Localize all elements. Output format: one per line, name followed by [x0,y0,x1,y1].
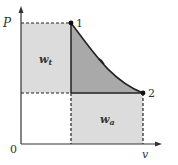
point-2-label: 2 [148,87,155,100]
pv-diagram: P v 0 1 2 wt wa [0,0,178,165]
point-2-marker [141,91,146,96]
point-1-marker [69,21,74,26]
x-axis-label: v [142,148,149,161]
y-axis-arrow-icon [19,6,24,13]
curve-area-region [71,23,143,93]
point-1-label: 1 [76,17,83,30]
origin-label: 0 [10,143,17,156]
y-axis-label: P [2,16,12,30]
x-axis-arrow-icon [155,142,162,147]
